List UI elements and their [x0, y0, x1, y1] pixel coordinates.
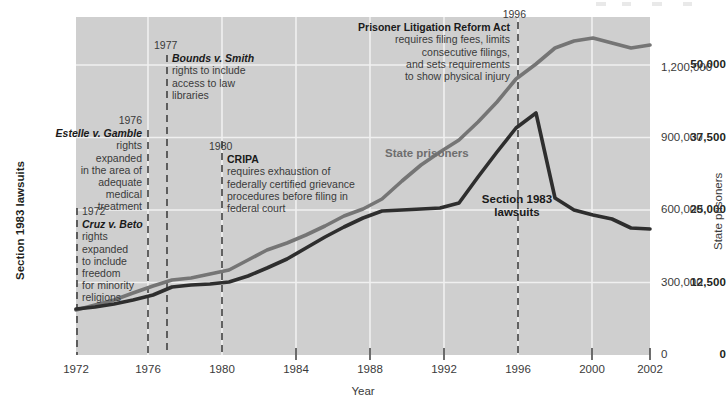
- xtick-1976: 1976: [118, 363, 178, 375]
- annotation-body-line: expanded: [82, 243, 154, 255]
- annotation-year: 1976: [46, 114, 142, 126]
- xtick-1984: 1984: [266, 363, 326, 375]
- annotation-body-line: procedures before filing in: [227, 190, 369, 202]
- annotation-prisoner-litigation-reform-act: 1996 Prisoner Litigation Reform Act requ…: [322, 8, 510, 82]
- annotation-estelle-v-gamble: 1976 Estelle v. Gamble rights expanded i…: [46, 114, 142, 213]
- annotation-body-line: in the area of: [46, 164, 142, 176]
- annotation-body-line: for minority: [82, 279, 154, 291]
- annotation-body-line: access to law: [172, 77, 282, 89]
- ytick-right-600000: 600,000: [661, 203, 703, 215]
- annotation-heading: Estelle v. Gamble: [46, 127, 142, 139]
- ytick-right-0: 0: [661, 348, 667, 360]
- annotation-body-line: and sets requirements: [322, 58, 510, 70]
- xtick-1988: 1988: [340, 363, 400, 375]
- annotation-body-line: to include: [82, 255, 154, 267]
- xtick-1996: 1996: [488, 363, 548, 375]
- annotation-body-line: to show physical injury: [322, 70, 510, 82]
- ytick-right-300000: 300,000: [661, 276, 703, 288]
- annotation-heading: CRIPA: [227, 153, 369, 165]
- x-axis-ticks: [296, 348, 650, 360]
- annotation-year: 1996: [322, 8, 526, 20]
- ytick-left-0: 0: [658, 348, 726, 360]
- annotation-body-line: federal court: [227, 202, 369, 214]
- annotation-body-line: rights: [82, 230, 154, 242]
- series-label-section-1983-lawsuits: Section 1983 lawsuits: [462, 193, 572, 219]
- xtick-1980: 1980: [192, 363, 252, 375]
- annotation-body-line: requires exhaustion of: [227, 165, 369, 177]
- annotation-year: 1980: [209, 140, 369, 152]
- ytick-right-900000: 900,000: [661, 131, 703, 143]
- series-label-line-1: Section 1983: [482, 193, 552, 205]
- annotation-year: 1977: [154, 39, 282, 51]
- xtick-2002: 2002: [620, 363, 680, 375]
- annotation-heading: Bounds v. Smith: [172, 52, 282, 64]
- annotation-heading: Prisoner Litigation Reform Act: [322, 21, 510, 33]
- annotation-heading: Cruz v. Beto: [82, 218, 154, 230]
- annotation-body-line: consecutive filings,: [322, 46, 510, 58]
- annotation-bounds-v-smith: 1977 Bounds v. Smith rights to include a…: [172, 39, 282, 101]
- annotation-body-line: federally certified grievance: [227, 178, 369, 190]
- annotation-body-line: adequate: [46, 176, 142, 188]
- y-axis-title-left: Section 1983 lawsuits: [14, 161, 26, 280]
- annotation-body-line: treatment: [46, 200, 142, 212]
- annotation-body-line: rights: [46, 139, 142, 151]
- chart-root: 0 12,500 25,000 37,500 50,000 0 300,000 …: [0, 0, 726, 420]
- annotation-cripa: 1980 CRIPA requires exhaustion of federa…: [227, 140, 369, 214]
- series-label-line-2: lawsuits: [494, 206, 539, 218]
- ytick-right-1200000: 1,200,000: [661, 61, 712, 73]
- x-axis-title: Year: [303, 385, 423, 397]
- annotation-body-line: requires filing fees, limits: [322, 33, 510, 45]
- xtick-2000: 2000: [562, 363, 622, 375]
- annotation-body-line: rights to include: [172, 64, 282, 76]
- xtick-1992: 1992: [414, 363, 474, 375]
- annotation-body-line: freedom: [82, 267, 154, 279]
- annotation-body-line: medical: [46, 188, 142, 200]
- annotation-body-line: religions: [82, 291, 154, 303]
- series-label-state-prisoners: State prisoners: [385, 147, 469, 160]
- y-axis-title-right: State prisoners: [712, 173, 724, 250]
- annotation-body-line: expanded: [46, 152, 142, 164]
- annotation-cruz-v-beto: 1972 Cruz v. Beto rights expanded to inc…: [82, 205, 154, 304]
- xtick-1972: 1972: [46, 363, 106, 375]
- annotation-body-line: libraries: [172, 89, 282, 101]
